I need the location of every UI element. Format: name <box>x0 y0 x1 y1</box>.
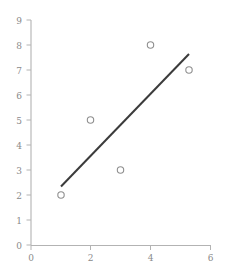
data-point-marker <box>117 167 123 173</box>
scatter-plot-chart: 9 8 7 6 5 4 3 2 1 0 0 2 4 6 <box>0 0 237 277</box>
x-tick-label-6: 6 <box>208 253 214 263</box>
y-tick-label-5: 5 <box>16 116 22 126</box>
trend-line <box>61 54 189 187</box>
data-point-marker <box>186 67 192 73</box>
data-point-marker <box>87 117 93 123</box>
y-tick-label-7: 7 <box>16 66 22 76</box>
y-tick-label-2: 2 <box>16 191 22 201</box>
y-tick-label-6: 6 <box>16 91 22 101</box>
x-tick-label-4: 4 <box>148 253 154 263</box>
x-axis-ticks <box>31 246 211 251</box>
data-point-marker <box>58 192 64 198</box>
y-tick-label-1: 1 <box>16 216 22 226</box>
y-tick-label-8: 8 <box>16 41 22 51</box>
y-tick-label-0: 0 <box>16 241 22 251</box>
data-point-marker <box>147 42 153 48</box>
y-tick-label-9: 9 <box>16 16 22 26</box>
x-tick-label-0: 0 <box>28 253 34 263</box>
x-tick-label-2: 2 <box>88 253 94 263</box>
y-tick-label-4: 4 <box>16 141 22 151</box>
y-axis-ticks <box>27 20 32 245</box>
chart-canvas: 9 8 7 6 5 4 3 2 1 0 0 2 4 6 <box>0 0 237 277</box>
y-tick-label-3: 3 <box>16 166 22 176</box>
